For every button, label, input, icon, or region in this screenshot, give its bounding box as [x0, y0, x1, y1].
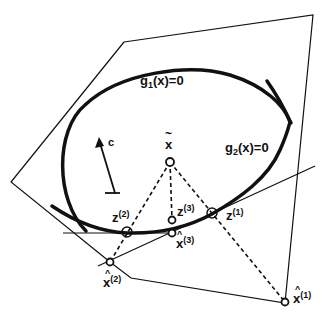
point-xhat1	[282, 299, 289, 306]
label-c: c	[108, 136, 114, 148]
c-vector-arrowhead	[95, 137, 104, 148]
label-xhat1: x(1)	[293, 290, 311, 306]
label-z1: z(1)	[226, 207, 244, 223]
label-z2: z(2)	[112, 209, 130, 225]
label-xhat3: x(3)	[176, 235, 194, 251]
label-xhat2: x(2)	[103, 274, 121, 290]
label-z3: z(3)	[177, 203, 195, 219]
outer-polygon	[11, 15, 313, 303]
dashed-line-xhat1	[170, 162, 285, 302]
point-x-tilde	[166, 158, 174, 166]
point-xhat3	[169, 230, 176, 237]
dashed-line-xhat3	[170, 162, 172, 220]
point-z3	[169, 217, 176, 224]
label-g2: g2(x)=0	[225, 140, 269, 157]
label-x-tilde: x	[165, 137, 173, 152]
c-vector-shaft	[100, 143, 115, 193]
diagram-canvas: g1(x)=0 g2(x)=0 c ~ x z(2) z(3) z(1) ^ x…	[0, 0, 325, 318]
tangent-line-z1	[98, 166, 315, 266]
point-xhat2	[107, 259, 114, 266]
label-g1: g1(x)=0	[140, 73, 184, 90]
g2-curve	[267, 81, 291, 123]
